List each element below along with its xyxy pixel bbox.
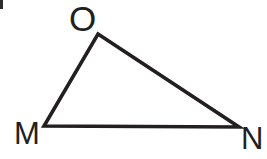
figure-canvas: O M N [0, 0, 267, 159]
vertex-label-n: N [241, 123, 263, 154]
vertex-label-o: O [69, 1, 96, 36]
vertex-label-m: M [14, 118, 40, 149]
scan-artifact [0, 0, 3, 9]
figure-background [0, 0, 267, 159]
triangle-figure [0, 0, 267, 159]
